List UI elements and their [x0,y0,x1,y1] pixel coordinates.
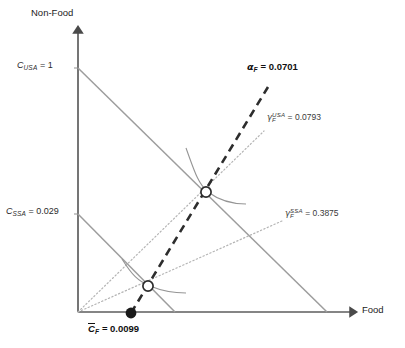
gamma-usa-subscript: F [272,117,285,123]
gamma-ssa-value: = 0.3875 [305,208,338,218]
alpha-expansion-path [131,87,268,313]
gamma-ssa-script: SSAF [290,208,303,220]
gamma-ssa-subscript: F [290,213,303,219]
ssa-equilibrium-point [143,281,153,291]
gamma-usa-ray-label: γUSAF = 0.0793 [267,112,321,124]
diagram-canvas [0,0,405,348]
gamma-ssa-ray-label: γSSAF = 0.3875 [285,208,339,220]
ssa-intercept-label: CSSA = 0.029 [6,207,59,217]
alpha-subscript: F [254,66,258,73]
gamma-ssa-ray [78,221,282,312]
cbar-symbol: C [88,323,95,334]
gamma-usa-script: USAF [272,112,285,124]
cbar-value: = 0.0099 [102,323,139,334]
ssa-intercept-subscript: SSA [13,210,27,217]
gamma-usa-value: = 0.0793 [288,112,321,122]
subsistence-point [126,308,137,319]
y-axis-label: Non-Food [31,8,73,18]
cbar-subscript: F [95,328,99,335]
usa-intercept-label: CUSA = 1 [17,61,53,71]
x-axis-label: Food [362,305,384,315]
alpha-value: = 0.0701 [261,61,298,72]
subsistence-label: CF = 0.0099 [88,323,139,336]
alpha-expansion-path-label: αF = 0.0701 [247,62,298,74]
usa-intercept-subscript: USA [24,64,38,71]
indifference-curve-figure: Non-Food Food CUSA = 1 CSSA = 0.029 αF =… [0,0,405,348]
ssa-intercept-value: = 0.029 [29,206,59,216]
usa-intercept-value: = 1 [40,60,53,70]
usa-equilibrium-point [201,187,211,197]
usa-indifference-curve [186,148,246,204]
